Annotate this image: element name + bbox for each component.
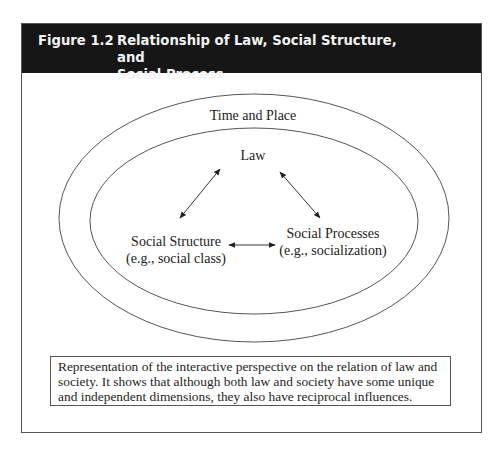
arrow-law-social-structure — [180, 169, 220, 218]
outer-ellipse-time-and-place — [59, 94, 449, 342]
law-node-label: Law — [241, 148, 267, 163]
social-processes-label: Social Processes — [287, 226, 380, 241]
social-processes-sublabel: (e.g., socialization) — [279, 243, 387, 259]
social-structure-label: Social Structure — [131, 234, 221, 249]
time-and-place-label: Time and Place — [210, 108, 297, 123]
social-structure-sublabel: (e.g., social class) — [126, 251, 226, 267]
figure-caption: Representation of the interactive perspe… — [50, 356, 451, 406]
arrow-law-social-processes — [280, 172, 320, 218]
